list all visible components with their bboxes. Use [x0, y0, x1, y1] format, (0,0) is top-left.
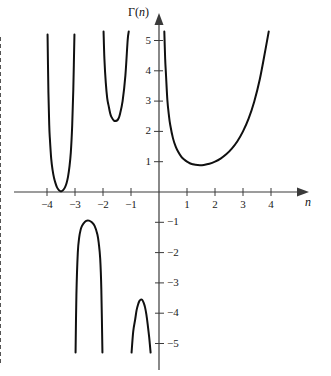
y-tick-label: −4: [167, 307, 179, 318]
y-axis-label-glyph: ): [145, 5, 149, 19]
gamma-curve-branch: [48, 34, 75, 191]
x-tick-label: −4: [38, 199, 56, 210]
x-tick-label: 2: [206, 199, 224, 210]
y-axis-label-glyph: Γ: [128, 5, 135, 19]
x-tick-label: −2: [94, 199, 112, 210]
y-tick-label: −1: [167, 216, 179, 227]
axis-lines: [14, 13, 309, 370]
plot-canvas: [0, 0, 331, 376]
x-axis-label: n: [305, 196, 311, 208]
gamma-function-plot: −4−3−2−1123454321−1−2−3−4−5 Γ(n) n: [0, 0, 331, 376]
x-tick-label: 3: [234, 199, 252, 210]
y-tick-label: −3: [167, 277, 179, 288]
y-tick-label: −5: [167, 338, 179, 349]
y-tick-label: 1: [133, 156, 151, 167]
x-tick-label: 4: [262, 199, 280, 210]
x-tick-label: −1: [122, 199, 140, 210]
y-tick-label: 2: [133, 125, 151, 136]
gamma-curve-branch: [104, 31, 129, 121]
x-tick-label: 1: [178, 199, 196, 210]
y-axis-arrow-icon: [155, 13, 164, 25]
gamma-curve-branch: [164, 31, 268, 165]
y-axis-label: Γ(n): [128, 6, 149, 18]
x-tick-label: −3: [66, 199, 84, 210]
gamma-curve-branch: [76, 220, 103, 352]
gamma-curve-branch: [132, 299, 151, 352]
y-tick-label: 4: [133, 65, 151, 76]
y-tick-label: 5: [133, 35, 151, 46]
y-tick-label: −2: [167, 247, 179, 258]
y-tick-label: 3: [133, 95, 151, 106]
